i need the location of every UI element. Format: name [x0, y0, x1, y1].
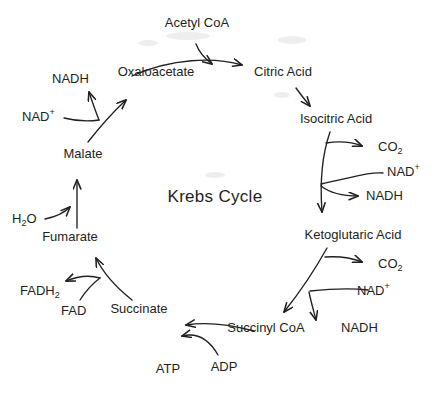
label-nadh-isocitric: NADH: [366, 188, 403, 203]
arrow-malate-nadh-out: [89, 92, 99, 120]
label-fumarate: Fumarate: [42, 229, 98, 244]
krebs-cycle-canvas: Acetyl CoA Oxaloacetate Citric Acid Isoc…: [0, 0, 440, 393]
arrow-citric-to-isocitric: [296, 88, 310, 106]
arrow-ketoglutaric-nadh-out: [309, 292, 316, 320]
label-atp: ATP: [156, 361, 180, 376]
arrow-isocitric-nadh-out: [321, 186, 358, 196]
arrow-water-in: [45, 207, 70, 219]
nad-superscript: +: [49, 107, 54, 117]
arrow-ketoglutaric-co2-out: [325, 257, 362, 262]
label-fadh2: FADH2: [20, 283, 60, 300]
label-nad-plus-isocitric: NAD+: [387, 162, 420, 179]
label-acetyl-coa: Acetyl CoA: [165, 15, 230, 30]
arrow-fad-in: [80, 278, 100, 300]
water-h: H: [12, 211, 21, 226]
label-oxaloacetate: Oxaloacetate: [118, 64, 195, 79]
krebs-cycle-diagram: Acetyl CoA Oxaloacetate Citric Acid Isoc…: [0, 0, 440, 393]
label-ketoglutaric-acid: Ketoglutaric Acid: [305, 227, 402, 242]
label-adp: ADP: [211, 359, 238, 374]
label-isocitric-acid: Isocitric Acid: [300, 111, 372, 126]
arrow-isocitric-to-ketoglutaric: [321, 132, 330, 212]
label-co2-isocitric: CO2: [378, 139, 403, 156]
label-malate: Malate: [63, 146, 102, 161]
co2-base: CO: [378, 139, 398, 154]
nad-superscript: +: [384, 281, 389, 291]
arrow-succinate-to-fumarate: [96, 258, 132, 300]
label-nadh-malate: NADH: [52, 71, 89, 86]
nad-base: NAD: [22, 109, 49, 124]
nad-base: NAD: [357, 283, 384, 298]
arrow-malate-nad-in: [64, 118, 99, 121]
fadh2-base: FADH: [20, 283, 55, 298]
label-fad: FAD: [61, 303, 86, 318]
co2-base: CO: [378, 256, 398, 271]
label-nad-plus-malate: NAD+: [22, 107, 55, 124]
co2-subscript: 2: [398, 263, 403, 273]
label-citric-acid: Citric Acid: [254, 64, 312, 79]
arrow-adp-to-atp: [182, 335, 218, 355]
arrow-fad-to-fadh2: [66, 276, 100, 281]
nad-base: NAD: [387, 164, 414, 179]
label-nad-plus-ketoglutaric: NAD+: [357, 281, 390, 298]
diagram-title: Krebs Cycle: [168, 187, 263, 206]
arrow-ketoglutaric-to-succinyl: [284, 248, 327, 312]
label-succinyl-coa: Succinyl CoA: [227, 320, 305, 335]
water-o: O: [26, 211, 36, 226]
label-succinate: Succinate: [110, 301, 167, 316]
nad-superscript: +: [414, 162, 419, 172]
scan-artifacts: [138, 32, 306, 178]
label-co2-ketoglutaric: CO2: [378, 256, 403, 273]
arrow-isocitric-nad-in: [321, 173, 383, 184]
label-nadh-ketoglutaric: NADH: [341, 320, 378, 335]
co2-subscript: 2: [398, 146, 403, 156]
arrow-isocitric-co2-out: [326, 142, 362, 146]
fadh2-subscript: 2: [55, 290, 60, 300]
label-water: H2O: [12, 211, 37, 228]
